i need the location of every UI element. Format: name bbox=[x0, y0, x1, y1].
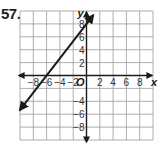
y-axis-label: y bbox=[76, 7, 84, 19]
coordinate-plane: −8−6−4−224688642−4−6−8Oxy bbox=[0, 0, 161, 147]
x-tick-label: −4 bbox=[54, 77, 66, 88]
origin-label: O bbox=[76, 76, 85, 88]
x-tick-label: 2 bbox=[97, 77, 103, 88]
x-tick-label: 8 bbox=[137, 77, 143, 88]
y-tick-label: −8 bbox=[73, 122, 85, 133]
x-axis-label: x bbox=[150, 76, 158, 88]
y-tick-label: −4 bbox=[73, 96, 85, 107]
y-tick-label: 2 bbox=[79, 58, 85, 69]
x-tick-label: 6 bbox=[124, 77, 130, 88]
x-tick-label: 4 bbox=[110, 77, 116, 88]
y-tick-label: 4 bbox=[79, 45, 85, 56]
y-tick-label: −6 bbox=[73, 109, 85, 120]
